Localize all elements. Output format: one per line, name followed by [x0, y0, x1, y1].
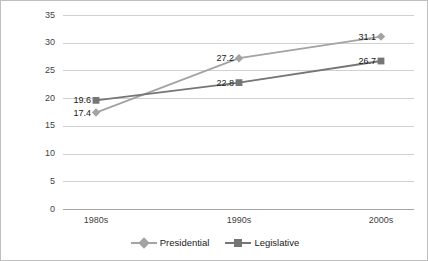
- data-point-label: 19.6: [73, 96, 91, 105]
- chart-container: 35 30 25 20 15 10 5 0 17.427.231.119.622…: [0, 0, 428, 261]
- y-axis-tick-label: 0: [50, 205, 55, 214]
- legend-item-legislative[interactable]: Legislative: [225, 237, 299, 248]
- x-axis-tick-label: 1990s: [227, 215, 252, 225]
- legend-marker-square-icon: [225, 237, 251, 248]
- legend-item-presidential[interactable]: Presidential: [131, 237, 210, 248]
- y-axis-tick-label: 15: [45, 121, 55, 130]
- y-axis-tick-label: 25: [45, 66, 55, 75]
- x-axis-line: [63, 209, 414, 210]
- data-point-marker: [92, 108, 100, 116]
- y-axis-tick: 5: [1, 177, 55, 186]
- y-axis-tick-label: 20: [45, 94, 55, 103]
- series-line-presidential: [96, 37, 381, 113]
- data-point-marker: [378, 58, 385, 65]
- y-axis-tick-label: 35: [45, 11, 55, 20]
- y-axis-tick: 10: [1, 149, 55, 158]
- y-axis-tick-label: 30: [45, 38, 55, 47]
- data-point-label: 31.1: [358, 32, 376, 41]
- y-axis-tick: 30: [1, 38, 55, 47]
- data-point-label: 17.4: [73, 108, 91, 117]
- data-point-marker: [93, 97, 100, 104]
- x-axis-tick-label: 1980s: [84, 215, 109, 225]
- y-axis-tick: 0: [1, 205, 55, 214]
- chart-legend: Presidential Legislative: [1, 237, 428, 248]
- data-point-marker: [377, 32, 385, 40]
- y-axis-tick: 20: [1, 94, 55, 103]
- data-point-marker: [235, 54, 243, 62]
- y-axis-tick-label: 5: [50, 177, 55, 186]
- series-plot: [63, 15, 414, 209]
- y-axis-tick: 25: [1, 66, 55, 75]
- legend-label: Legislative: [254, 237, 299, 248]
- legend-marker-diamond-icon: [131, 237, 157, 248]
- y-axis-tick: 35: [1, 11, 55, 20]
- plot-area: 17.427.231.119.622.826.7: [63, 15, 414, 209]
- data-point-label: 26.7: [358, 57, 376, 66]
- y-axis-tick: 15: [1, 121, 55, 130]
- legend-label: Presidential: [160, 237, 210, 248]
- x-axis-tick-label: 2000s: [369, 215, 394, 225]
- data-point-marker: [236, 79, 243, 86]
- data-point-label: 22.8: [216, 78, 234, 87]
- data-point-label: 27.2: [216, 54, 234, 63]
- y-axis-tick-label: 10: [45, 149, 55, 158]
